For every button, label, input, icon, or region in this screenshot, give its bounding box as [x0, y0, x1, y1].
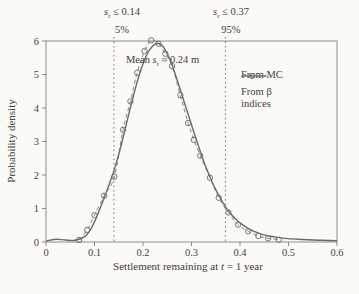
- pdf-chart: 00.10.20.30.40.50.60123456: [0, 0, 359, 294]
- y-tick-label: 1: [34, 203, 39, 214]
- x-tick-label: 0.5: [282, 247, 295, 258]
- x-tick-label: 0: [43, 247, 48, 258]
- x-tick-label: 0.3: [185, 247, 198, 258]
- quantile-95-expression: sr ≤ 0.37: [213, 6, 249, 17]
- y-tick-label: 6: [34, 36, 39, 47]
- y-tick-label: 5: [34, 69, 39, 80]
- mc-curve: [46, 43, 337, 241]
- legend: From MC From β indices: [241, 69, 283, 110]
- x-axis-title: Settlement remaining at t = 1 year: [113, 260, 263, 272]
- figure-container: 00.10.20.30.40.50.60123456 sr ≤ 0.14 5% …: [0, 0, 359, 294]
- quantile-5-expression: sr ≤ 0.14: [104, 6, 140, 17]
- beta-data-marker: [85, 227, 90, 232]
- beta-data-marker: [135, 70, 140, 75]
- quantile-95-annotation: sr ≤ 0.37 95%: [213, 5, 249, 36]
- beta-data-marker: [256, 233, 261, 238]
- y-tick-label: 2: [34, 170, 39, 181]
- x-tick-label: 0.2: [136, 247, 149, 258]
- x-tick-label: 0.6: [330, 247, 343, 258]
- mean-annotation: Mean sr ≈ 0.24 m: [126, 54, 199, 68]
- quantile-95-percent: 95%: [221, 24, 240, 35]
- y-axis-title: Probability density: [5, 99, 17, 182]
- quantile-5-percent: 5%: [115, 24, 129, 35]
- legend-label-beta: From β indices: [241, 86, 272, 110]
- legend-item-beta: From β indices: [241, 86, 283, 110]
- y-tick-label: 4: [34, 103, 40, 114]
- quantile-5-annotation: sr ≤ 0.14 5%: [104, 5, 140, 36]
- x-tick-label: 0.4: [233, 247, 247, 258]
- y-tick-label: 3: [34, 136, 39, 147]
- beta-dash-circle-swatch-icon: [241, 72, 267, 80]
- y-tick-label: 0: [34, 237, 39, 248]
- beta-data-marker: [142, 48, 147, 53]
- x-tick-label: 0.1: [88, 247, 101, 258]
